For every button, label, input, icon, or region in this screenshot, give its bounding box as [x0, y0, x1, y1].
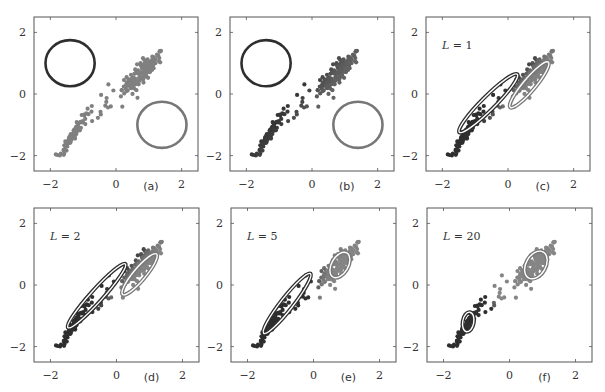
data-point	[149, 67, 153, 71]
data-point	[533, 262, 537, 266]
axes-frame	[34, 17, 198, 171]
data-points	[54, 49, 163, 158]
data-point	[458, 340, 462, 344]
data-point	[336, 269, 340, 273]
data-point	[322, 273, 326, 277]
data-point	[253, 344, 257, 348]
data-point	[268, 129, 272, 133]
data-point	[483, 295, 487, 299]
x-tick-label: −2	[435, 369, 451, 382]
data-point	[159, 240, 163, 244]
plot-area	[251, 240, 361, 349]
data-point	[326, 92, 330, 96]
data-point	[448, 153, 452, 157]
data-point	[340, 259, 344, 263]
data-point	[333, 287, 337, 291]
data-point	[541, 67, 545, 71]
x-tick-label: 0	[113, 178, 120, 191]
plot-area	[241, 40, 382, 157]
data-point	[318, 296, 322, 300]
panel-e: −202−202(e)L = 5	[207, 208, 396, 384]
y-tick-label: 2	[215, 26, 222, 39]
plot-area	[446, 49, 555, 158]
data-point	[326, 277, 330, 281]
data-point	[295, 112, 299, 116]
y-tick-label: −2	[207, 341, 223, 354]
data-point	[335, 71, 339, 75]
component-1-circle	[45, 40, 94, 86]
iteration-label: L = 2	[49, 230, 81, 243]
data-point	[339, 68, 343, 72]
x-tick-label: 2	[179, 369, 186, 382]
data-point	[529, 271, 533, 275]
data-point	[354, 49, 358, 53]
data-point	[466, 132, 470, 136]
data-point	[318, 78, 322, 82]
data-point	[513, 279, 517, 283]
data-point	[158, 49, 162, 53]
data-point	[120, 279, 124, 283]
axes-frame	[230, 17, 394, 171]
x-tick-label: 0	[113, 369, 120, 382]
data-point	[67, 138, 71, 142]
data-point	[105, 96, 109, 100]
data-point	[285, 110, 289, 114]
x-tick-label: 0	[505, 178, 512, 191]
iteration-label: L = 1	[441, 39, 473, 52]
data-point	[488, 116, 492, 120]
y-tick-label: 0	[216, 279, 223, 292]
data-point	[252, 153, 256, 157]
data-point	[260, 149, 264, 153]
data-point	[325, 73, 329, 77]
data-point	[90, 119, 94, 123]
data-point	[514, 296, 518, 300]
data-point	[129, 86, 133, 90]
data-point	[334, 78, 338, 82]
data-point	[89, 110, 93, 114]
x-tick-label: −2	[42, 369, 58, 382]
data-point	[322, 280, 326, 284]
data-point	[536, 259, 540, 263]
data-point	[479, 298, 483, 302]
data-point	[524, 283, 528, 287]
y-tick-label: −2	[10, 150, 26, 163]
y-tick-label: 0	[19, 88, 26, 101]
data-point	[135, 62, 139, 66]
panel-a: −202−202(a)	[10, 17, 198, 193]
data-point	[316, 105, 320, 109]
data-point	[120, 88, 124, 92]
data-point	[157, 245, 161, 249]
x-tick-label: −2	[42, 178, 58, 191]
data-point	[75, 121, 79, 125]
data-point	[68, 134, 72, 138]
data-point	[149, 258, 153, 262]
data-point	[86, 107, 90, 111]
data-point	[72, 129, 76, 133]
data-point	[529, 287, 533, 291]
data-point	[499, 296, 503, 300]
data-point	[316, 88, 320, 92]
data-point	[56, 344, 60, 348]
data-point	[56, 153, 60, 157]
data-point	[482, 104, 486, 108]
data-point	[321, 82, 325, 86]
data-point	[483, 310, 487, 314]
data-point	[104, 100, 108, 104]
data-point	[474, 114, 478, 118]
data-point	[478, 107, 482, 111]
data-point	[331, 96, 335, 100]
data-point	[465, 320, 469, 324]
data-point	[319, 269, 323, 273]
component-1-circle	[241, 40, 290, 86]
data-point	[532, 269, 536, 273]
data-point	[82, 114, 86, 118]
data-point	[317, 279, 321, 283]
old-faithful-em-figure: −202−202(a)−202−202(b)−202−202(c)L = 1−2…	[0, 0, 605, 392]
y-tick-label: 2	[411, 26, 418, 39]
data-point	[65, 340, 69, 344]
data-point	[458, 333, 462, 337]
x-tick-label: 0	[310, 369, 317, 382]
data-point	[287, 301, 291, 305]
data-point	[119, 94, 123, 98]
data-point	[135, 80, 139, 84]
